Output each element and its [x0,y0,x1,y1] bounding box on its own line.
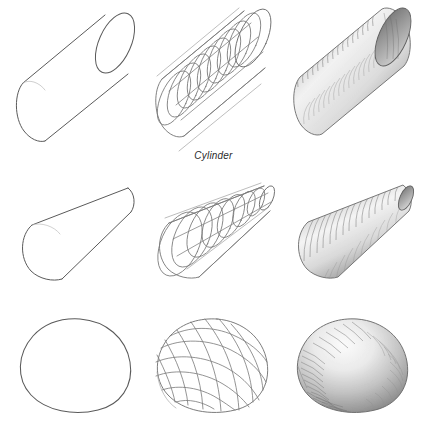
cylinder-shaded-figure [283,0,425,148]
cylinder-contour-figure [143,0,283,148]
rounded-shaded-figure [283,310,425,430]
figure-row-rounded: Rounded form [0,310,427,445]
cone-outline-figure [2,168,142,293]
rounded-outline-figure [2,310,142,430]
rounded-contour-figure [143,310,283,430]
illustration-plate: Cylinder [0,0,427,445]
cylinder-outline-figure [2,0,142,148]
caption-cylinder: Cylinder [0,150,427,161]
cone-contour-figure [143,168,283,293]
figure-row-cylinder: Cylinder [0,0,427,168]
cone-shaded-figure [283,168,425,293]
figure-row-cone: Cone [0,168,427,310]
